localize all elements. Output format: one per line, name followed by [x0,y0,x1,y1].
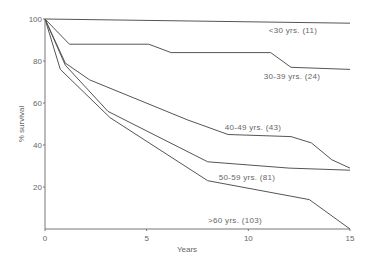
y-tick-label: 20 [33,183,42,192]
x-tick-label: 5 [144,234,149,243]
series-lines [45,19,350,229]
series-line-under-30 [45,19,350,23]
series-line-40-49 [45,19,350,168]
x-tick-label: 0 [43,234,48,243]
survival-chart: 20406080100 051015 Years % survival <30 … [0,0,374,264]
y-axis-title: % survival [17,106,26,143]
x-tick-label: 10 [244,234,253,243]
series-label-under-30: <30 yrs. (11) [269,26,317,35]
series-label-40-49: 40-49 yrs. (43) [225,123,282,132]
y-tick-label: 100 [29,15,43,24]
y-ticks: 20406080100 [29,15,45,192]
series-label-50-59: 50-59 yrs. (81) [219,173,276,182]
series-label-30-39: 30-39 yrs. (24) [264,72,321,81]
y-tick-label: 60 [33,99,42,108]
series-label-over-60: >60 yrs. (103) [208,216,262,225]
y-tick-label: 40 [33,141,42,150]
x-ticks: 051015 [43,229,355,243]
x-axis-title: Years [177,245,197,254]
series-line-50-59 [45,19,350,170]
y-tick-label: 80 [33,57,42,66]
axes: 20406080100 051015 [29,15,355,243]
x-tick-label: 15 [346,234,355,243]
